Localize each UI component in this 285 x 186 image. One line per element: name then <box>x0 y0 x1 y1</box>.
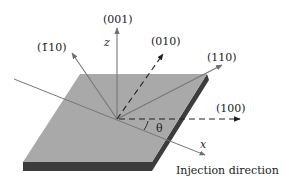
label-x: x <box>200 138 207 151</box>
label-010: (010) <box>151 35 181 48</box>
crystal-orientation-diagram: (001) z (1̄10) (010) (110) (100) θ x Inj… <box>0 0 285 186</box>
label-theta: θ <box>156 122 163 135</box>
plate-front-edge <box>23 162 152 171</box>
caption-injection-direction: Injection direction <box>176 164 279 177</box>
label-minus110: (1̄10) <box>37 41 67 54</box>
sample-plate <box>23 74 209 171</box>
label-110: (110) <box>207 51 237 64</box>
label-z: z <box>103 36 110 49</box>
label-100: (100) <box>216 102 246 115</box>
label-001: (001) <box>103 13 133 26</box>
